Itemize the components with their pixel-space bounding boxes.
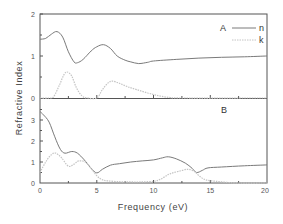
x-tick-15: 15 <box>206 187 214 194</box>
panel-b-y-tick-0: 0 <box>31 180 35 187</box>
panel-a-y-tick-0: 0 <box>31 95 35 102</box>
series-layer <box>40 32 267 184</box>
x-tick-10: 10 <box>150 187 158 194</box>
panel-b-y-tick-1: 1 <box>31 159 35 166</box>
legend-k-label: k <box>259 35 264 45</box>
x-tick-20: 20 <box>261 187 269 194</box>
panel-a-label: A <box>220 23 226 33</box>
panel-a-y-tick-2: 2 <box>31 11 35 18</box>
panel-b-k-line <box>40 153 267 183</box>
x-ticks <box>68 95 238 183</box>
panel-b-y-tick-2: 2 <box>31 138 35 145</box>
refractive-index-chart: 2 1 0 3 2 1 0 0 5 10 15 20 Frequency (eV… <box>0 0 283 224</box>
panel-a-n-line <box>40 32 267 64</box>
panel-b-y-tick-3: 3 <box>31 117 35 124</box>
legend: n k <box>232 23 264 45</box>
panel-a-y-tick-1: 1 <box>31 53 35 60</box>
panel-b-label: B <box>221 105 227 115</box>
panel-a-k-line <box>40 72 267 99</box>
y-axis-label: Refractive Index <box>14 61 24 136</box>
x-tick-5: 5 <box>95 187 99 194</box>
legend-n-label: n <box>259 23 264 33</box>
x-axis-label: Frequency (eV) <box>118 202 188 212</box>
x-tick-0: 0 <box>38 187 42 194</box>
